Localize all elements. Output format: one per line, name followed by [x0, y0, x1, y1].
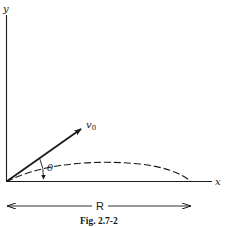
angle-theta-label: θ: [47, 162, 53, 173]
velocity-label: v0: [86, 119, 96, 132]
projectile-diagram: y x v0 θ R Fig. 2.7-2: [0, 0, 228, 227]
y-axis-label: y: [2, 3, 9, 14]
angle-arc: [40, 158, 44, 179]
x-axis-label: x: [215, 176, 221, 187]
velocity-subscript: 0: [92, 124, 96, 132]
figure-caption: Fig. 2.7-2: [80, 216, 118, 226]
trajectory-dashed-path: [7, 162, 192, 181]
range-label: R: [96, 200, 104, 212]
